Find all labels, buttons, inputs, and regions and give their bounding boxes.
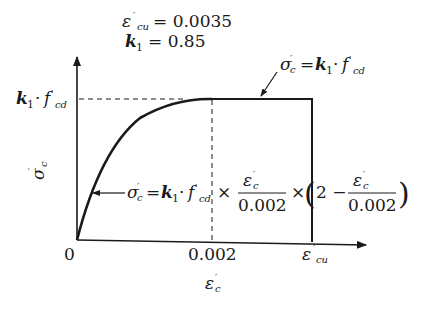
denominator: 0.002 <box>348 195 397 215</box>
prime-mark: ′ <box>290 53 293 64</box>
subscript: cd <box>199 193 211 204</box>
dot-operator: · <box>179 182 184 202</box>
plateau-equation: σ ′ c = k 1 · f ′ cd <box>280 53 365 77</box>
open-paren: ( <box>304 176 316 211</box>
subscript: 1 <box>326 64 333 77</box>
two-minus: 2 − <box>316 182 346 202</box>
origin-label: 0 <box>64 244 75 264</box>
equals-sign: = <box>146 182 160 202</box>
k-symbol: k <box>315 54 327 74</box>
times-sign: × <box>217 182 231 202</box>
epsilon-symbol: ε <box>353 170 362 190</box>
subscript: cd <box>353 65 365 76</box>
parabola-equation: σ ′ c = k 1 · f ′ cd × ε ′ c 0.002 × ( 2… <box>127 169 410 215</box>
stress-strain-diagram: ε ′ cu = 0.0035 k 1 = 0.85 k 1 · f ′ cd … <box>0 0 424 312</box>
epsilon-cu-value: = 0.0035 <box>153 11 232 31</box>
dot-operator: · <box>35 88 40 108</box>
prime-mark: ′ <box>215 272 218 283</box>
subscript: 1 <box>172 192 179 205</box>
subscript: c <box>290 64 296 75</box>
prime-mark: ′ <box>349 54 352 65</box>
k1-value: = 0.85 <box>148 31 206 51</box>
prime-mark: ′ <box>133 10 136 21</box>
subscript: cu <box>316 254 328 265</box>
prime-mark: ′ <box>51 88 54 99</box>
subscript: c <box>215 283 221 294</box>
prime-mark: ′ <box>26 167 37 170</box>
k-symbol: k <box>125 31 137 51</box>
x-axis-label: ε ′ c <box>205 272 221 294</box>
epsilon-symbol: ε <box>122 11 131 31</box>
k-symbol: k <box>16 88 28 108</box>
subscript: c <box>253 180 259 191</box>
x-tick-epsilon-cu: ε ′ cu <box>302 243 328 265</box>
subscript: 1 <box>136 41 143 54</box>
subscript: c <box>38 161 49 167</box>
x-tick-0002: 0.002 <box>188 244 237 264</box>
parameter-epsilon-cu: ε ′ cu = 0.0035 <box>122 10 232 32</box>
prime-mark: ′ <box>363 169 366 180</box>
subscript: c <box>137 192 143 203</box>
y-axis-label: σ ′ c <box>26 161 49 180</box>
prime-mark: ′ <box>195 182 198 193</box>
subscript: cd <box>55 99 67 110</box>
equals-sign: = <box>300 54 314 74</box>
k-symbol: k <box>161 182 173 202</box>
parabolic-curve <box>77 99 212 240</box>
subscript: 1 <box>27 98 34 111</box>
plateau-pointer-arrow <box>261 72 277 96</box>
denominator: 0.002 <box>238 195 287 215</box>
prime-mark: ′ <box>253 169 256 180</box>
epsilon-symbol: ε <box>205 273 214 293</box>
close-paren: ) <box>398 176 410 211</box>
prime-mark: ′ <box>137 181 140 192</box>
plateau-line <box>212 99 312 242</box>
parameter-k1: k 1 = 0.85 <box>125 31 206 54</box>
epsilon-symbol: ε <box>302 244 311 264</box>
y-level-label: k 1 · f ′ cd <box>16 88 67 111</box>
dot-operator: · <box>333 54 338 74</box>
epsilon-symbol: ε <box>243 170 252 190</box>
subscript: c <box>363 180 369 191</box>
